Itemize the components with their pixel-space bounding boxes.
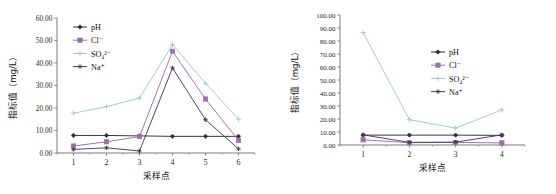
x-axis-ticks: 1234 <box>340 145 525 159</box>
legend-label: Cl⁻ <box>449 61 461 70</box>
series-group <box>361 30 505 145</box>
legend-item: SO₄²⁻ <box>73 50 111 59</box>
data-point-marker <box>436 63 440 67</box>
series-line <box>74 135 239 136</box>
y-tick-label: 30.00 <box>320 103 336 111</box>
x-tick-label: 3 <box>454 150 458 159</box>
y-tick-label: 50.00 <box>320 77 336 85</box>
y-axis-label-group: 指标值（mg/L） <box>7 52 18 119</box>
legend: pHCl⁻SO₄²⁻Na⁺ <box>431 48 469 97</box>
data-point-marker <box>500 141 504 145</box>
legend-item: Cl⁻ <box>431 61 461 70</box>
legend-label: SO₄²⁻ <box>449 75 469 84</box>
data-point-marker <box>104 133 108 137</box>
series-group <box>71 42 241 153</box>
y-axis-ticks: 0.0010.0020.0030.0040.0050.0060.00 <box>36 14 57 158</box>
y-tick-label: 0.00 <box>40 149 53 158</box>
line-chart-left: 0.0010.0020.0030.0040.0050.0060.00123456… <box>0 0 278 194</box>
y-axis-label-group: 指标值（mg/L） <box>289 47 300 114</box>
data-point-marker <box>436 89 440 93</box>
legend-label: pH <box>449 48 459 57</box>
data-point-marker <box>71 111 76 116</box>
data-point-marker <box>104 140 108 144</box>
data-point-marker <box>170 49 174 53</box>
x-tick-label: 6 <box>237 158 241 167</box>
y-axis-ticks: 0.0010.0020.0030.0040.0050.0060.0070.008… <box>316 12 340 150</box>
data-point-marker <box>137 149 141 153</box>
data-point-marker <box>78 25 82 29</box>
data-point-marker <box>104 146 108 150</box>
y-axis-label: 指标值（mg/L） <box>7 52 18 119</box>
legend-label: pH <box>91 23 101 32</box>
legend-item: Na⁺ <box>431 88 463 97</box>
data-point-marker <box>236 138 240 142</box>
data-point-marker <box>104 104 109 109</box>
legend-label: SO₄²⁻ <box>91 50 111 59</box>
y-tick-label: 80.00 <box>320 38 336 46</box>
series-2 <box>361 138 504 146</box>
x-axis-label: 采样点 <box>419 162 446 173</box>
legend-item: pH <box>73 23 101 32</box>
data-point-marker <box>500 133 504 137</box>
legend-label: Na⁺ <box>449 88 463 97</box>
data-point-marker <box>499 107 504 112</box>
y-tick-label: 90.00 <box>320 25 336 33</box>
data-point-marker <box>203 134 207 138</box>
legend-label: Cl⁻ <box>91 36 103 45</box>
data-point-marker <box>361 138 365 142</box>
data-point-marker <box>203 97 207 101</box>
y-tick-label: 20.00 <box>320 116 336 124</box>
axes <box>340 15 525 145</box>
data-point-marker <box>78 38 82 42</box>
data-point-marker <box>361 30 366 35</box>
data-point-marker <box>170 66 174 70</box>
figure-row: 0.0010.0020.0030.0040.0050.0060.00123456… <box>0 0 556 194</box>
chart-panel-left: 0.0010.0020.0030.0040.0050.0060.00123456… <box>0 0 278 194</box>
y-tick-label: 100.00 <box>316 12 336 20</box>
data-point-marker <box>71 133 75 137</box>
data-point-marker <box>203 118 207 122</box>
axes <box>57 18 255 153</box>
y-axis-label: 指标值（mg/L） <box>289 47 300 114</box>
legend-item: Na⁺ <box>73 63 105 72</box>
legend: pHCl⁻SO₄²⁻Na⁺ <box>73 23 111 72</box>
data-point-marker <box>453 126 458 131</box>
series-1 <box>71 133 240 138</box>
x-axis-label: 采样点 <box>143 170 170 181</box>
x-tick-label: 4 <box>171 158 175 167</box>
data-point-marker <box>78 64 82 68</box>
data-point-marker <box>137 134 141 138</box>
x-tick-label: 4 <box>500 150 504 159</box>
data-point-marker <box>435 76 440 81</box>
data-point-marker <box>453 140 457 144</box>
data-point-marker <box>436 50 440 54</box>
y-tick-label: 40.00 <box>36 59 53 68</box>
series-4 <box>71 66 240 153</box>
chart-panel-right: 0.0010.0020.0030.0040.0050.0060.0070.008… <box>278 0 556 194</box>
series-3 <box>361 30 505 131</box>
data-point-marker <box>236 147 240 151</box>
data-point-marker <box>407 140 411 144</box>
data-point-marker <box>361 133 365 137</box>
y-tick-label: 20.00 <box>36 104 53 113</box>
y-tick-label: 70.00 <box>320 51 336 59</box>
x-tick-label: 1 <box>361 150 365 159</box>
x-tick-label: 1 <box>72 158 76 167</box>
legend-item: pH <box>431 48 459 57</box>
y-tick-label: 30.00 <box>36 81 53 90</box>
data-point-marker <box>77 51 82 56</box>
data-point-marker <box>137 96 142 101</box>
data-point-marker <box>71 147 75 151</box>
y-tick-label: 60.00 <box>36 14 53 23</box>
y-tick-label: 40.00 <box>320 90 336 98</box>
y-tick-label: 0.00 <box>323 142 336 150</box>
data-point-marker <box>407 117 412 122</box>
x-tick-label: 5 <box>204 158 208 167</box>
series-line <box>363 33 502 129</box>
legend-item: SO₄²⁻ <box>431 75 469 84</box>
x-axis-ticks: 123456 <box>57 153 255 167</box>
data-point-marker <box>407 133 411 137</box>
y-tick-label: 10.00 <box>320 129 336 137</box>
y-tick-label: 60.00 <box>320 64 336 72</box>
series-1 <box>361 133 504 138</box>
